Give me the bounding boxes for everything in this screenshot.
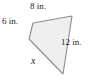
geometry-figure: 8 in. 6 in. 12 in. x — [0, 0, 89, 84]
side-label-left: 6 in. — [2, 16, 18, 26]
side-label-bottom-unknown: x — [31, 56, 35, 66]
side-label-top: 8 in. — [30, 1, 46, 11]
side-label-right: 12 in. — [61, 37, 82, 47]
